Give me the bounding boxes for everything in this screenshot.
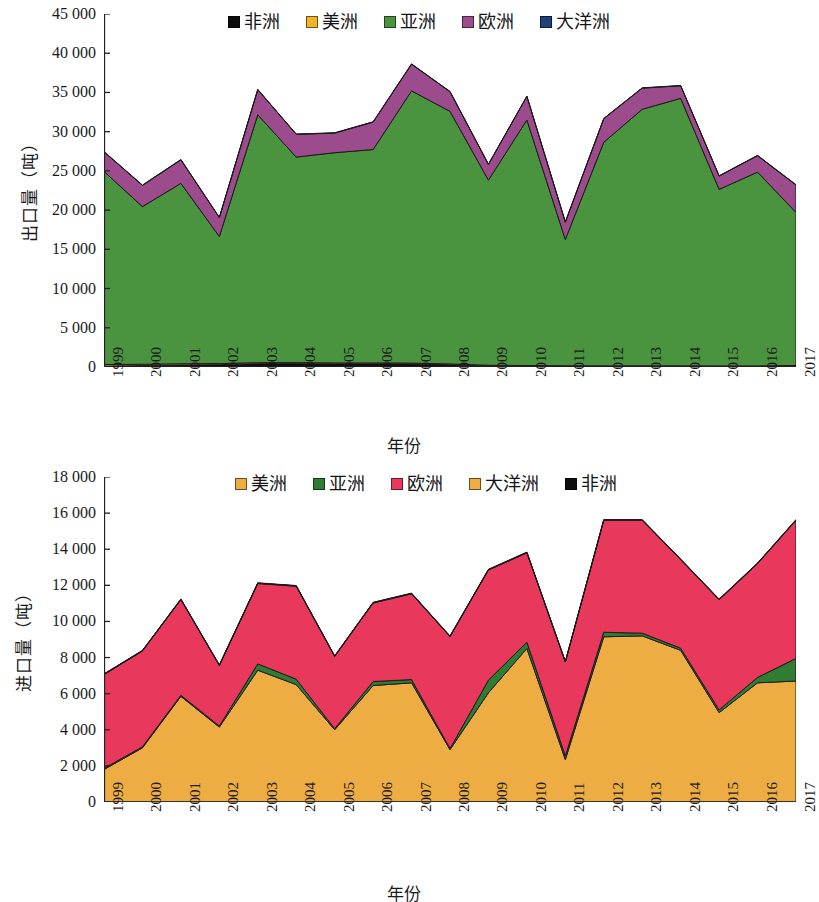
x-axis-title-export: 年份 bbox=[0, 432, 807, 457]
import-y-tick-label: 16 000 bbox=[0, 504, 96, 522]
import-y-tick-label: 12 000 bbox=[0, 576, 96, 594]
export-x-tick-label-2010: 2010 bbox=[533, 347, 550, 377]
import-y-tick-label: 0 bbox=[0, 793, 96, 811]
import-x-tick-label-2003: 2003 bbox=[264, 782, 281, 812]
export-y-tick-label: 35 000 bbox=[0, 83, 96, 101]
import-x-tick-label-2011: 2011 bbox=[571, 783, 588, 812]
import-x-tick-label-2006: 2006 bbox=[379, 782, 396, 812]
export-y-tick-label: 15 000 bbox=[0, 240, 96, 258]
export-y-tick-label: 10 000 bbox=[0, 280, 96, 298]
import-x-tick-label-2017: 2017 bbox=[802, 782, 819, 812]
export-x-tick-label-1999: 1999 bbox=[110, 347, 127, 377]
export-x-tick-label-2000: 2000 bbox=[148, 347, 165, 377]
export-x-tick-label-2013: 2013 bbox=[648, 347, 665, 377]
import-y-tick-label: 8 000 bbox=[0, 649, 96, 667]
import-y-tick-label: 18 000 bbox=[0, 468, 96, 486]
export-x-tick-label-2016: 2016 bbox=[764, 347, 781, 377]
import-x-tick-label-2012: 2012 bbox=[610, 782, 627, 812]
export-y-tick-label: 0 bbox=[0, 358, 96, 376]
import-x-tick-label-2001: 2001 bbox=[187, 782, 204, 812]
export-y-tick-label: 45 000 bbox=[0, 5, 96, 23]
import-area-chart: 进口量（吨） 美洲亚洲欧洲大洋洲非洲 02 0004 0006 0008 000… bbox=[0, 455, 807, 902]
import-x-tick-label-2014: 2014 bbox=[687, 782, 704, 812]
export-plot-area bbox=[104, 14, 796, 367]
export-plot-svg bbox=[104, 14, 796, 367]
export-x-tick-label-2009: 2009 bbox=[494, 347, 511, 377]
export-x-tick-label-2001: 2001 bbox=[187, 347, 204, 377]
import-x-tick-label-2015: 2015 bbox=[725, 782, 742, 812]
import-y-tick-label: 10 000 bbox=[0, 612, 96, 630]
export-x-tick-label-2014: 2014 bbox=[687, 347, 704, 377]
import-y-tick-label: 4 000 bbox=[0, 721, 96, 739]
import-x-tick-label-2008: 2008 bbox=[456, 782, 473, 812]
x-axis-title-import: 年份 bbox=[0, 880, 807, 902]
import-x-tick-label-2007: 2007 bbox=[418, 782, 435, 812]
export-y-tick-label: 30 000 bbox=[0, 123, 96, 141]
import-y-tick-label: 2 000 bbox=[0, 757, 96, 775]
import-x-tick-label-2013: 2013 bbox=[648, 782, 665, 812]
import-x-tick-label-2009: 2009 bbox=[494, 782, 511, 812]
export-y-tick-label: 5 000 bbox=[0, 319, 96, 337]
import-y-tick-label: 14 000 bbox=[0, 540, 96, 558]
export-y-tick-label: 20 000 bbox=[0, 201, 96, 219]
export-area-亚洲 bbox=[104, 91, 796, 366]
import-plot-svg bbox=[104, 477, 796, 802]
import-x-tick-label-2016: 2016 bbox=[764, 782, 781, 812]
export-x-tick-label-2007: 2007 bbox=[418, 347, 435, 377]
export-y-tick-label: 25 000 bbox=[0, 162, 96, 180]
import-x-tick-label-2005: 2005 bbox=[341, 782, 358, 812]
export-x-tick-label-2011: 2011 bbox=[571, 348, 588, 377]
import-x-tick-label-1999: 1999 bbox=[110, 782, 127, 812]
import-plot-area bbox=[104, 477, 796, 802]
import-x-tick-label-2004: 2004 bbox=[302, 782, 319, 812]
export-x-tick-label-2003: 2003 bbox=[264, 347, 281, 377]
export-x-tick-label-2015: 2015 bbox=[725, 347, 742, 377]
export-y-tick-label: 40 000 bbox=[0, 44, 96, 62]
import-x-tick-label-2002: 2002 bbox=[225, 782, 242, 812]
import-y-tick-label: 6 000 bbox=[0, 685, 96, 703]
import-x-tick-label-2000: 2000 bbox=[148, 782, 165, 812]
export-x-tick-label-2012: 2012 bbox=[610, 347, 627, 377]
export-area-chart: 出口量（吨） 非洲美洲亚洲欧洲大洋洲 05 00010 00015 00020 … bbox=[0, 0, 807, 470]
import-x-tick-label-2010: 2010 bbox=[533, 782, 550, 812]
export-x-tick-label-2002: 2002 bbox=[225, 347, 242, 377]
export-x-tick-label-2004: 2004 bbox=[302, 347, 319, 377]
export-x-tick-label-2005: 2005 bbox=[341, 347, 358, 377]
export-x-tick-label-2006: 2006 bbox=[379, 347, 396, 377]
export-x-tick-label-2008: 2008 bbox=[456, 347, 473, 377]
export-x-tick-label-2017: 2017 bbox=[802, 347, 819, 377]
